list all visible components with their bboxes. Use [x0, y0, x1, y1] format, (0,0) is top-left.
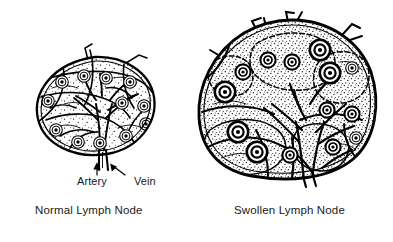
follicle	[94, 137, 107, 150]
follicle	[344, 106, 359, 121]
follicle	[346, 62, 359, 75]
follicle	[228, 122, 248, 142]
follicle	[100, 72, 113, 85]
follicle	[310, 40, 330, 60]
follicle	[320, 63, 340, 83]
follicle	[50, 124, 63, 137]
follicle	[284, 54, 299, 69]
swollen-lymph-node-caption: Swollen Lymph Node	[234, 205, 345, 217]
follicle	[215, 82, 235, 102]
lymph-node-figure: Artery Vein Normal Lymph Node Swollen Ly…	[0, 0, 393, 242]
follicle	[282, 147, 297, 162]
follicle	[319, 102, 334, 117]
follicle	[124, 76, 137, 89]
artery-label: Artery	[77, 176, 107, 187]
follicle	[247, 142, 267, 162]
normal-lymph-node-caption: Normal Lymph Node	[35, 205, 143, 217]
follicle	[72, 136, 85, 149]
follicle	[120, 130, 133, 143]
follicle	[325, 139, 340, 154]
follicle	[260, 52, 275, 67]
follicle	[138, 100, 151, 113]
follicle	[116, 97, 129, 110]
vein-label: Vein	[134, 176, 156, 187]
follicle	[235, 64, 250, 79]
follicle	[78, 70, 91, 83]
